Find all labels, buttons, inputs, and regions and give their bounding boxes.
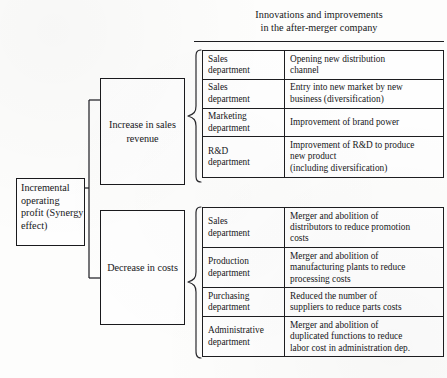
cell-description: Entry into new market by new business (d…: [285, 79, 444, 108]
cell-description: Reduced the number of suppliers to reduc…: [285, 288, 444, 317]
node-increase-in-sales-revenue: Increase in sales revenue: [100, 78, 185, 185]
brace-decrease-path: [188, 207, 201, 358]
diagram-title-line-1: Innovations and improvements: [194, 8, 444, 21]
brace-increase-in-sales-revenue: [186, 48, 203, 184]
cell-description: Merger and abolition of manufacturing pl…: [285, 248, 444, 288]
cell-description: Opening new distribution channel: [285, 51, 444, 80]
table-row: Administrative department Merger and abo…: [203, 317, 444, 357]
cell-department: Sales department: [203, 79, 285, 108]
diagram-canvas: Innovations and improvements in the afte…: [0, 0, 447, 378]
cell-description: Merger and abolition of distributors to …: [285, 208, 444, 248]
cell-department: Production department: [203, 248, 285, 288]
cell-description: Merger and abolition of duplicated funct…: [285, 317, 444, 357]
table-innovations-decrease-in-costs: Sales department Merger and abolition of…: [202, 207, 444, 357]
node-decrease-in-costs-label: Decrease in costs: [103, 261, 182, 274]
cell-department: Sales department: [203, 208, 285, 248]
node-increase-in-sales-revenue-label: Increase in sales revenue: [101, 118, 184, 144]
table-row: Purchasing department Reduced the number…: [203, 288, 444, 317]
table-row: R&D department Improvement of R&D to pro…: [203, 137, 444, 177]
diagram-title-line-2: in the after-merger company: [194, 21, 444, 34]
cell-description: Improvement of brand power: [285, 108, 444, 137]
table-row: Marketing department Improvement of bran…: [203, 108, 444, 137]
diagram-title: Innovations and improvements in the afte…: [194, 8, 444, 34]
node-decrease-in-costs: Decrease in costs: [100, 210, 185, 325]
table-row: Sales department Opening new distributio…: [203, 51, 444, 80]
title-underline-rule: [194, 41, 444, 42]
cell-description: Improvement of R&D to produce new produc…: [285, 137, 444, 177]
table-innovations-increase-in-sales-revenue: Sales department Opening new distributio…: [202, 50, 444, 178]
table-row: Production department Merger and aboliti…: [203, 248, 444, 288]
cell-department: Marketing department: [203, 108, 285, 137]
node-incremental-operating-profit-label: Incremental operating profit (Synergy ef…: [17, 179, 84, 232]
table-row: Sales department Merger and abolition of…: [203, 208, 444, 248]
cell-department: Purchasing department: [203, 288, 285, 317]
node-incremental-operating-profit: Incremental operating profit (Synergy ef…: [16, 178, 85, 246]
brace-increase-path: [188, 50, 201, 182]
cell-department: Sales department: [203, 51, 285, 80]
table-row: Sales department Entry into new market b…: [203, 79, 444, 108]
cell-department: R&D department: [203, 137, 285, 177]
brace-decrease-in-costs: [186, 205, 203, 360]
cell-department: Administrative department: [203, 317, 285, 357]
